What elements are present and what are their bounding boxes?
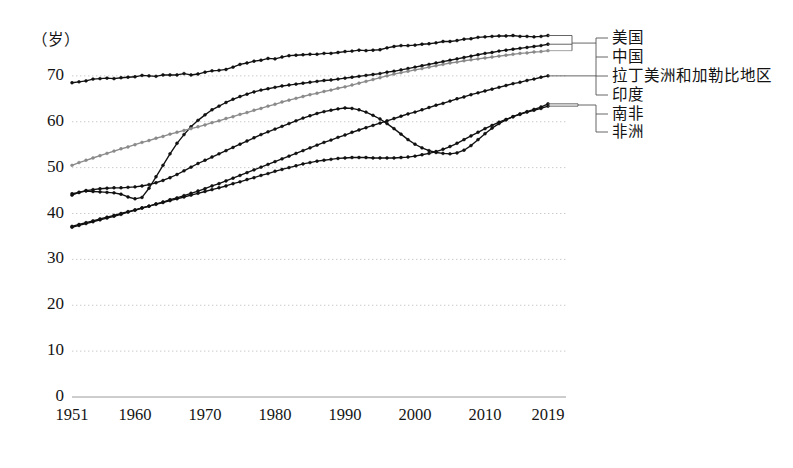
series-marker (197, 73, 200, 76)
series-marker (344, 77, 347, 80)
series-marker (526, 111, 529, 114)
legend-label-1[interactable]: 中国 (612, 49, 644, 65)
series-marker (435, 104, 438, 107)
series-marker (316, 53, 319, 56)
series-marker (372, 78, 375, 81)
series-marker (484, 90, 487, 93)
series-marker (197, 119, 200, 122)
series-marker (302, 117, 305, 120)
series-marker (295, 97, 298, 100)
series-marker (267, 163, 270, 166)
series-marker (449, 40, 452, 43)
series-marker (120, 186, 123, 189)
series-marker (463, 38, 466, 41)
series-marker (533, 45, 536, 48)
series-marker (204, 113, 207, 116)
series-marker (134, 75, 137, 78)
series-marker (442, 152, 445, 155)
series-marker (400, 156, 403, 159)
series-marker (435, 41, 438, 44)
series-marker (85, 189, 88, 192)
series-marker (92, 219, 95, 222)
series-marker (463, 96, 466, 99)
series-marker (120, 193, 123, 196)
series-marker (309, 81, 312, 84)
series-marker (519, 52, 522, 55)
series-marker (337, 51, 340, 54)
series-marker (519, 81, 522, 84)
series-marker (281, 157, 284, 160)
series-marker (421, 67, 424, 70)
series-marker (456, 57, 459, 60)
series-marker (463, 138, 466, 141)
series-marker (302, 53, 305, 56)
series-marker (386, 122, 389, 125)
x-axis-tick-label: 1960 (107, 405, 163, 425)
legend-label-3[interactable]: 印度 (612, 87, 644, 103)
series-marker (421, 146, 424, 149)
series-marker (456, 151, 459, 154)
series-marker (309, 114, 312, 117)
series-marker (470, 37, 473, 40)
series-marker (176, 197, 179, 200)
series-marker (323, 52, 326, 55)
series-marker (295, 152, 298, 155)
series-marker (127, 196, 130, 199)
series-marker (344, 157, 347, 160)
series-marker (211, 108, 214, 111)
series-marker (288, 155, 291, 158)
legend-label-5[interactable]: 非洲 (612, 124, 644, 140)
series-marker (372, 49, 375, 52)
series-marker (169, 74, 172, 77)
series-marker (491, 51, 494, 54)
series-marker (505, 84, 508, 87)
legend-label-2[interactable]: 拉丁美洲和加勒比地区 (612, 68, 772, 84)
series-marker (78, 191, 81, 194)
series-marker (155, 75, 158, 78)
legend-label-0[interactable]: 美国 (612, 30, 644, 46)
series-marker (365, 126, 368, 129)
series-marker (526, 46, 529, 49)
series-marker (225, 68, 228, 71)
series-marker (421, 43, 424, 46)
series-marker (141, 185, 144, 188)
series-marker (414, 143, 417, 146)
series-marker (330, 79, 333, 82)
series-marker (428, 63, 431, 66)
series-marker (323, 79, 326, 82)
series-marker (253, 90, 256, 93)
series-marker (498, 121, 501, 124)
series-marker (197, 125, 200, 128)
series-marker (260, 59, 263, 62)
series-marker (365, 80, 368, 83)
series-marker (176, 74, 179, 77)
series-marker (365, 74, 368, 77)
series-marker (323, 110, 326, 113)
series-marker (337, 157, 340, 160)
series-marker (78, 223, 81, 226)
series-marker (141, 207, 144, 210)
series-marker (393, 73, 396, 76)
series-marker (267, 130, 270, 133)
series-marker (239, 143, 242, 146)
life-expectancy-chart: （岁） 010203040506070195119601970198019902… (0, 0, 793, 468)
series-marker (407, 113, 410, 116)
series-marker (386, 46, 389, 49)
series-marker (512, 48, 515, 51)
series-marker (484, 52, 487, 55)
series-marker (302, 163, 305, 166)
series-marker (92, 157, 95, 160)
series-marker (239, 174, 242, 177)
series-marker (134, 197, 137, 200)
series-marker (526, 79, 529, 82)
legend-label-4[interactable]: 南非 (612, 106, 644, 122)
series-marker (162, 179, 165, 182)
series-marker (505, 118, 508, 121)
series-marker (456, 97, 459, 100)
series-marker (337, 136, 340, 139)
series-marker (99, 77, 102, 80)
series-marker (393, 70, 396, 73)
series-marker (442, 60, 445, 63)
series-marker (127, 76, 130, 79)
series-marker (295, 83, 298, 86)
